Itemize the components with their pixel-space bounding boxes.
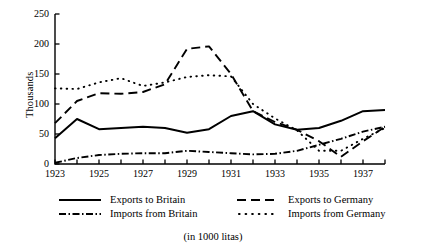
series-line (55, 127, 385, 163)
legend-label: Exports to Britain (102, 193, 185, 207)
x-tick-label: 1927 (123, 169, 163, 179)
legend-item-imports-from-germany: Imports from Germany (236, 207, 385, 221)
legend-item-imports-from-britain: Imports from Britain (58, 207, 236, 221)
y-tick-label: 150 (19, 69, 49, 79)
x-tick-label: 1925 (79, 169, 119, 179)
legend-label: Imports from Germany (280, 207, 385, 221)
figure-caption: (in 1000 litas) (0, 231, 426, 242)
y-tick-label: 50 (19, 129, 49, 139)
x-tick-label: 1933 (255, 169, 295, 179)
legend-row: Exports to Britain Exports to Germany (58, 193, 398, 207)
chart-series (55, 46, 385, 162)
legend-label: Imports from Britain (102, 207, 198, 221)
y-tick-label: 100 (19, 99, 49, 109)
x-tick-label: 1935 (299, 169, 339, 179)
chart-figure: Thousands 050100150200250 19231925192719… (0, 0, 426, 250)
legend-swatch-dashed (236, 194, 280, 206)
legend-label: Exports to Germany (280, 193, 373, 207)
series-line (55, 46, 385, 156)
chart-legend: Exports to Britain Exports to Germany Im… (58, 193, 398, 221)
x-tick-label: 1931 (211, 169, 251, 179)
legend-item-exports-to-germany: Exports to Germany (236, 193, 373, 207)
y-tick-label: 200 (19, 39, 49, 49)
x-tick-label: 1923 (35, 169, 75, 179)
x-tick-label: 1937 (343, 169, 383, 179)
series-line (55, 75, 385, 151)
legend-swatch-dash-dot (58, 208, 102, 220)
legend-swatch-dotted (236, 208, 280, 220)
chart-axes (55, 14, 385, 164)
y-tick-label: 250 (19, 9, 49, 19)
x-tick-label: 1929 (167, 169, 207, 179)
series-line (55, 110, 385, 138)
legend-row: Imports from Britain Imports from German… (58, 207, 398, 221)
legend-swatch-solid (58, 194, 102, 206)
legend-item-exports-to-britain: Exports to Britain (58, 193, 236, 207)
